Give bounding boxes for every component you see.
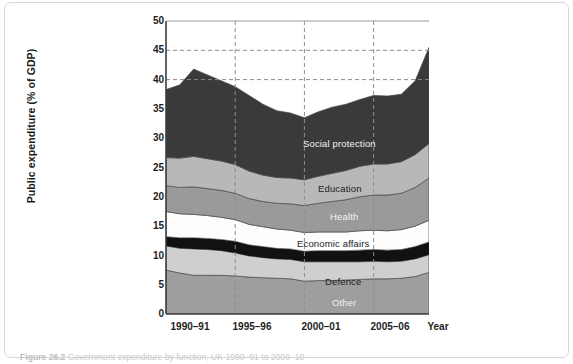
band-label-education: Education — [318, 183, 362, 194]
band-label-health: Health — [330, 211, 358, 222]
band-label-other: Other — [332, 297, 357, 308]
x-tick-1990-91: 1990–91 — [160, 321, 220, 332]
band-label-economic-affairs: Economic affairs — [297, 238, 369, 249]
band-label-defence: Defence — [325, 276, 361, 287]
x-tick-2005-06: 2005–06 — [360, 321, 420, 332]
x-axis-name: Year — [418, 321, 458, 332]
figure-caption-number: Figure 26.2 — [20, 352, 65, 362]
figure-caption: Figure 26.2 Government expenditure by fu… — [20, 352, 560, 362]
figure-caption-text: Government expenditure by function, UK 1… — [68, 352, 305, 362]
band-label-social-protection: Social protection — [303, 138, 376, 149]
plot-area — [0, 0, 573, 364]
stacked-area-chart: Public expenditure (% of GDP) 50 45 40 3… — [0, 0, 573, 364]
x-tick-2000-01: 2000–01 — [291, 321, 351, 332]
x-tick-1995-96: 1995–96 — [222, 321, 282, 332]
